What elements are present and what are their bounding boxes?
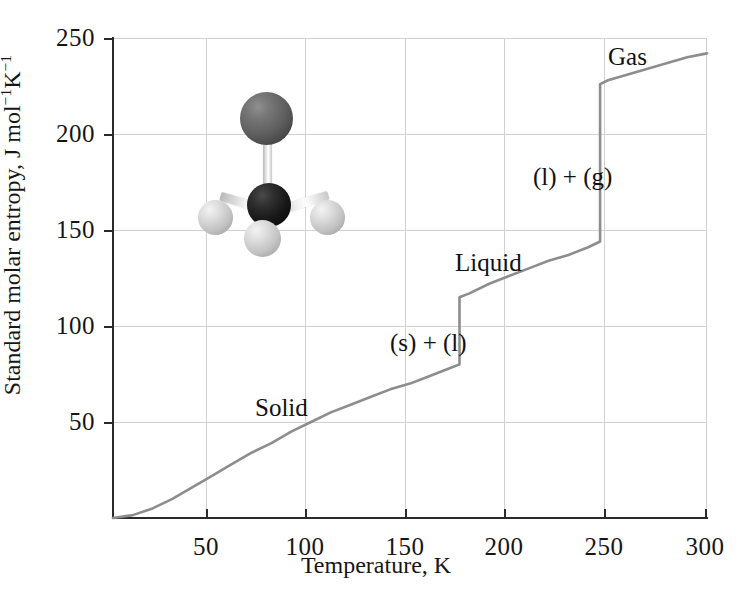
annotation-gas: Gas xyxy=(608,43,647,70)
annotation-liquid: Liquid xyxy=(455,249,522,276)
entropy-curve-line xyxy=(113,53,707,518)
y-axis-title-text: Standard molar entropy, J mol xyxy=(0,105,25,395)
y-tick-label-200: 200 xyxy=(35,121,95,146)
y-axis-title-exponent-2: −1 xyxy=(0,55,14,72)
y-tick-label-50: 50 xyxy=(35,409,95,434)
annotation-solid: Solid xyxy=(255,394,308,421)
y-axis-title-kelvin: K xyxy=(0,71,25,88)
plot-area: 50 100 150 200 250 300 xyxy=(113,38,707,518)
y-tick-label-150: 150 xyxy=(35,217,95,242)
y-tick-label-250: 250 xyxy=(35,25,95,50)
entropy-vs-temperature-figure: 250 200 150 100 50 Standard molar entrop… xyxy=(0,0,752,600)
annotation-solid-liquid: (s) + (l) xyxy=(390,329,467,356)
y-tick-label-100: 100 xyxy=(35,313,95,338)
annotation-liquid-gas: (l) + (g) xyxy=(533,163,612,190)
y-axis-title: Standard molar entropy, J mol−1K−1 xyxy=(0,0,21,525)
entropy-curve xyxy=(113,38,707,518)
x-axis-title: Temperature, K xyxy=(0,552,752,578)
y-axis-title-exponent-1: −1 xyxy=(0,89,14,106)
